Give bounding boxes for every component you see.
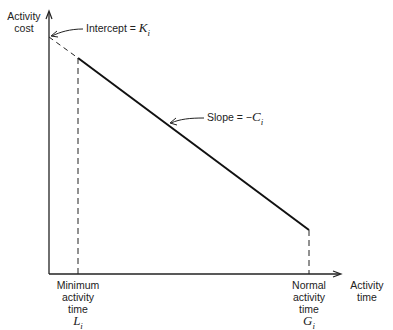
x-axis-label: Activity time (344, 279, 390, 303)
min-time-label: Minimum activity time Li (48, 279, 108, 330)
slope-leader-arrow (171, 118, 204, 123)
normal-time-label: Normal activity time Gi (281, 279, 337, 330)
intercept-extension-dashed (49, 37, 78, 58)
intercept-label: Intercept = Ki (86, 22, 150, 39)
cost-line (78, 58, 309, 230)
intercept-leader-arrow (52, 29, 83, 36)
slope-label: Slope = −Ci (207, 111, 263, 128)
y-axis-label: Activity cost (2, 10, 46, 34)
